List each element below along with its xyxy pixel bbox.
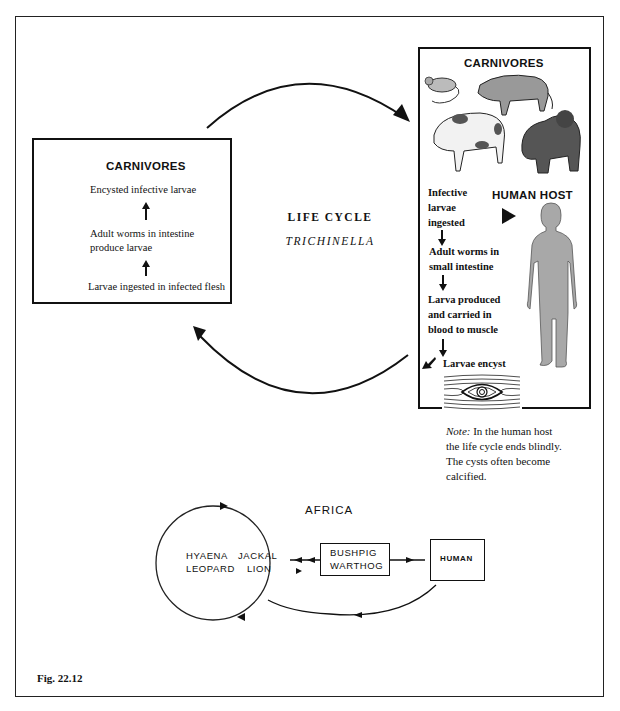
hyaena-label: HYAENA: [186, 550, 228, 561]
circle-row2: LEOPARDLION: [186, 562, 277, 575]
bushpig-box-text: BUSHPIG WARTHOG: [330, 546, 383, 572]
bushpig-label: BUSHPIG: [330, 546, 383, 559]
circle-row1: HYAENAJACKAL: [186, 549, 277, 562]
circle-animals: HYAENAJACKAL LEOPARDLION: [186, 549, 277, 575]
lion-label: LION: [247, 563, 272, 574]
warthog-label: WARTHOG: [330, 559, 383, 572]
leopard-label: LEOPARD: [186, 563, 235, 574]
figure-caption: Fig. 22.12: [37, 672, 83, 684]
human-box: HUMAN: [430, 539, 485, 581]
bushpig-warthog-box: BUSHPIG WARTHOG: [320, 543, 390, 576]
jackal-label: JACKAL: [238, 550, 278, 561]
africa-cycle-diagram: [0, 0, 620, 711]
human-box-label: HUMAN: [440, 554, 473, 563]
